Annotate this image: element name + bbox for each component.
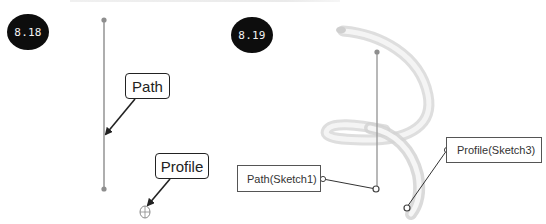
profile-endpoint-marker: [404, 205, 410, 211]
callout-profile: Profile: [155, 153, 209, 179]
path-leader-line: [323, 179, 376, 189]
callout-profile-sketch3: Profile(Sketch3): [446, 137, 542, 163]
path-arrow-8-18: [106, 99, 135, 134]
path-sketch-line-8-19: [374, 49, 379, 189]
path-leader-anchor: [320, 176, 325, 181]
path-sketch-line-8-18: [101, 17, 106, 191]
profile-arrow-8-18: [148, 179, 170, 205]
profile-circle-icon: [140, 206, 150, 218]
callout-path-sketch1: Path(Sketch1): [237, 165, 321, 192]
callout-path: Path: [125, 73, 170, 99]
path-endpoint-marker: [373, 186, 379, 192]
